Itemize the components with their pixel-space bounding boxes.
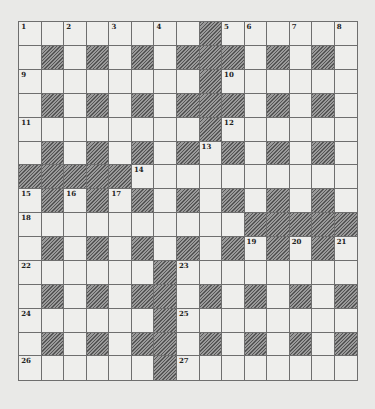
crossword-cell[interactable]: 17 [108, 188, 132, 213]
crossword-cell[interactable]: 8 [334, 21, 358, 46]
crossword-cell[interactable] [131, 69, 155, 94]
crossword-cell[interactable]: 19 [244, 236, 268, 261]
crossword-cell[interactable]: 27 [176, 355, 200, 380]
crossword-cell[interactable] [86, 69, 110, 94]
crossword-cell[interactable] [221, 284, 245, 309]
crossword-cell[interactable] [334, 188, 358, 213]
crossword-cell[interactable] [131, 355, 155, 380]
crossword-cell[interactable] [108, 260, 132, 285]
crossword-cell[interactable] [244, 93, 268, 118]
crossword-cell[interactable] [289, 308, 313, 333]
crossword-cell[interactable]: 5 [221, 21, 245, 46]
crossword-cell[interactable] [108, 236, 132, 261]
crossword-cell[interactable] [311, 164, 335, 189]
crossword-cell[interactable] [153, 188, 177, 213]
crossword-cell[interactable] [176, 117, 200, 142]
crossword-cell[interactable] [334, 141, 358, 166]
crossword-cell[interactable] [131, 308, 155, 333]
crossword-cell[interactable]: 2 [63, 21, 87, 46]
crossword-cell[interactable] [63, 212, 87, 237]
crossword-cell[interactable] [289, 117, 313, 142]
crossword-cell[interactable] [199, 355, 223, 380]
crossword-cell[interactable] [244, 308, 268, 333]
crossword-cell[interactable] [41, 308, 65, 333]
crossword-cell[interactable] [311, 332, 335, 357]
crossword-cell[interactable] [221, 332, 245, 357]
crossword-cell[interactable] [131, 212, 155, 237]
crossword-cell[interactable]: 22 [18, 260, 42, 285]
crossword-cell[interactable] [153, 45, 177, 70]
crossword-cell[interactable]: 23 [176, 260, 200, 285]
crossword-cell[interactable]: 16 [63, 188, 87, 213]
crossword-cell[interactable] [199, 308, 223, 333]
crossword-cell[interactable] [86, 212, 110, 237]
crossword-cell[interactable] [221, 308, 245, 333]
crossword-cell[interactable] [244, 164, 268, 189]
crossword-cell[interactable]: 13 [199, 141, 223, 166]
crossword-cell[interactable] [108, 308, 132, 333]
crossword-cell[interactable] [221, 164, 245, 189]
crossword-cell[interactable] [18, 141, 42, 166]
crossword-cell[interactable] [244, 69, 268, 94]
crossword-cell[interactable] [266, 260, 290, 285]
crossword-cell[interactable] [199, 260, 223, 285]
crossword-cell[interactable] [41, 21, 65, 46]
crossword-cell[interactable] [334, 93, 358, 118]
crossword-cell[interactable] [176, 284, 200, 309]
crossword-cell[interactable]: 20 [289, 236, 313, 261]
crossword-cell[interactable] [131, 21, 155, 46]
crossword-cell[interactable] [176, 69, 200, 94]
crossword-cell[interactable] [244, 260, 268, 285]
crossword-cell[interactable] [131, 260, 155, 285]
crossword-cell[interactable] [41, 260, 65, 285]
crossword-cell[interactable] [289, 164, 313, 189]
crossword-cell[interactable] [63, 117, 87, 142]
crossword-cell[interactable] [108, 45, 132, 70]
crossword-cell[interactable] [63, 308, 87, 333]
crossword-cell[interactable] [244, 141, 268, 166]
crossword-cell[interactable] [334, 308, 358, 333]
crossword-cell[interactable]: 12 [221, 117, 245, 142]
crossword-cell[interactable] [86, 21, 110, 46]
crossword-cell[interactable] [18, 332, 42, 357]
crossword-cell[interactable] [266, 21, 290, 46]
crossword-cell[interactable] [266, 164, 290, 189]
crossword-cell[interactable] [63, 284, 87, 309]
crossword-cell[interactable] [153, 69, 177, 94]
crossword-cell[interactable] [289, 355, 313, 380]
crossword-cell[interactable] [311, 308, 335, 333]
crossword-cell[interactable] [266, 332, 290, 357]
crossword-cell[interactable] [153, 117, 177, 142]
crossword-cell[interactable] [289, 93, 313, 118]
crossword-cell[interactable] [63, 93, 87, 118]
crossword-cell[interactable] [289, 188, 313, 213]
crossword-cell[interactable] [41, 212, 65, 237]
crossword-cell[interactable] [153, 236, 177, 261]
crossword-cell[interactable] [266, 284, 290, 309]
crossword-cell[interactable] [108, 141, 132, 166]
crossword-cell[interactable] [108, 284, 132, 309]
crossword-cell[interactable]: 14 [131, 164, 155, 189]
crossword-cell[interactable] [18, 45, 42, 70]
crossword-cell[interactable] [18, 236, 42, 261]
crossword-cell[interactable]: 21 [334, 236, 358, 261]
crossword-cell[interactable] [63, 355, 87, 380]
crossword-cell[interactable] [86, 308, 110, 333]
crossword-cell[interactable] [311, 355, 335, 380]
crossword-cell[interactable] [63, 45, 87, 70]
crossword-cell[interactable] [311, 21, 335, 46]
crossword-cell[interactable] [221, 260, 245, 285]
crossword-cell[interactable] [176, 21, 200, 46]
crossword-cell[interactable] [244, 355, 268, 380]
crossword-cell[interactable] [334, 164, 358, 189]
crossword-cell[interactable] [244, 45, 268, 70]
crossword-cell[interactable] [311, 69, 335, 94]
crossword-cell[interactable] [176, 332, 200, 357]
crossword-cell[interactable] [18, 284, 42, 309]
crossword-cell[interactable] [41, 117, 65, 142]
crossword-cell[interactable] [63, 236, 87, 261]
crossword-cell[interactable] [131, 117, 155, 142]
crossword-cell[interactable] [334, 45, 358, 70]
crossword-cell[interactable] [108, 69, 132, 94]
crossword-cell[interactable] [86, 260, 110, 285]
